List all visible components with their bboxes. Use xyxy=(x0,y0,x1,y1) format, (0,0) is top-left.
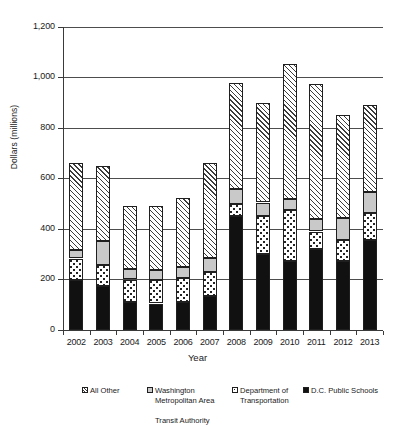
bar-segment-2008-s3 xyxy=(229,83,243,189)
x-tickmark-2003 xyxy=(116,331,117,335)
dotted-swatch-icon xyxy=(232,387,238,393)
legend-item-dcps[interactable]: D.C. Public Schools xyxy=(303,376,395,396)
bar-segment-2002-s3 xyxy=(69,163,83,250)
bar-2009 xyxy=(256,0,270,330)
black-swatch-icon xyxy=(303,387,309,393)
bar-2010 xyxy=(283,0,297,330)
legend-label-dcps: D.C. Public Schools xyxy=(311,386,378,395)
x-tickmark-origin xyxy=(63,331,64,335)
bar-segment-2006-s0 xyxy=(176,302,190,330)
bar-segment-2009-s3 xyxy=(256,103,270,203)
bar-segment-2005-s3 xyxy=(149,206,163,270)
x-axis-title: Year xyxy=(0,352,395,363)
bar-segment-2004-s3 xyxy=(123,206,137,269)
x-tickmark-2008 xyxy=(250,331,251,335)
x-tick-label-2013: 2013 xyxy=(353,337,387,347)
diagonal-hatch-swatch-icon xyxy=(82,387,88,393)
legend-label-wmata-line3: Transit Authority xyxy=(155,416,237,426)
bar-segment-2006-s1 xyxy=(176,278,190,302)
bar-segment-2005-s0 xyxy=(149,304,163,331)
bar-segment-2008-s2 xyxy=(229,189,243,204)
bar-segment-2013-s1 xyxy=(363,213,377,241)
bar-2013 xyxy=(363,0,377,330)
bar-segment-2011-s3 xyxy=(309,84,323,219)
bar-segment-2007-s1 xyxy=(203,272,217,296)
bar-segment-2011-s0 xyxy=(309,249,323,330)
x-tickmark-2004 xyxy=(143,331,144,335)
plot-area: Dollars (millions) 1,200 1,000 800 600 4… xyxy=(0,0,395,345)
legend-label-dot-line1: Department of xyxy=(240,386,288,395)
x-tickmark-2012 xyxy=(356,331,357,335)
bar-segment-2003-s3 xyxy=(96,166,110,241)
legend-item-dot[interactable]: Department of Transportation xyxy=(232,376,302,416)
legend-item-wmata[interactable]: Washington Metropolitan Area Transit Aut… xyxy=(147,376,237,429)
bar-segment-2007-s0 xyxy=(203,296,217,330)
bar-segment-2009-s0 xyxy=(256,254,270,330)
chart-legend: All Other Washington Metropolitan Area T… xyxy=(0,374,395,420)
bar-segment-2008-s1 xyxy=(229,204,243,217)
bar-segment-2010-s1 xyxy=(283,210,297,261)
bar-2011 xyxy=(309,0,323,330)
x-tickmark-2005 xyxy=(170,331,171,335)
bar-segment-2012-s0 xyxy=(336,261,350,330)
legend-label-dot-line2: Transportation xyxy=(240,396,302,406)
bar-2003 xyxy=(96,0,110,330)
bar-2012 xyxy=(336,0,350,330)
legend-label-wmata-line2: Metropolitan Area xyxy=(155,396,237,406)
gray-swatch-icon xyxy=(147,387,153,393)
bar-segment-2002-s0 xyxy=(69,280,83,330)
bar-segment-2011-s2 xyxy=(309,219,323,232)
chart-figure: Dollars (millions) 1,200 1,000 800 600 4… xyxy=(0,0,395,429)
bar-segment-2004-s2 xyxy=(123,269,137,280)
bar-2006 xyxy=(176,0,190,330)
x-tickmark-2013 xyxy=(383,331,384,335)
x-tickmark-2010 xyxy=(303,331,304,335)
legend-label-all-other: All Other xyxy=(90,386,120,395)
bar-segment-2004-s1 xyxy=(123,280,137,303)
bar-segment-2013-s2 xyxy=(363,192,377,212)
bar-segment-2002-s2 xyxy=(69,250,83,259)
bars-layer xyxy=(0,0,395,330)
bar-segment-2013-s0 xyxy=(363,240,377,330)
bar-segment-2005-s2 xyxy=(149,270,163,280)
bar-segment-2009-s1 xyxy=(256,216,270,254)
bar-segment-2004-s0 xyxy=(123,302,137,330)
bar-2007 xyxy=(203,0,217,330)
bar-2008 xyxy=(229,0,243,330)
bar-segment-2012-s2 xyxy=(336,218,350,240)
bar-2004 xyxy=(123,0,137,330)
bar-segment-2009-s2 xyxy=(256,203,270,217)
bar-segment-2012-s3 xyxy=(336,115,350,218)
legend-label-wmata-line1: Washington xyxy=(155,386,195,395)
bar-segment-2007-s2 xyxy=(203,258,217,272)
bar-segment-2013-s3 xyxy=(363,105,377,192)
x-tickmark-2011 xyxy=(330,331,331,335)
bar-segment-2010-s2 xyxy=(283,199,297,210)
bar-segment-2002-s1 xyxy=(69,259,83,281)
bar-2002 xyxy=(69,0,83,330)
legend-item-all-other[interactable]: All Other xyxy=(82,376,148,396)
bar-segment-2006-s3 xyxy=(176,198,190,267)
x-tickmark-2006 xyxy=(196,331,197,335)
bar-segment-2003-s1 xyxy=(96,265,110,287)
bar-segment-2007-s3 xyxy=(203,163,217,258)
x-tickmark-2009 xyxy=(276,331,277,335)
bar-segment-2006-s2 xyxy=(176,267,190,278)
bar-segment-2010-s0 xyxy=(283,261,297,330)
bar-segment-2012-s1 xyxy=(336,240,350,262)
bar-segment-2011-s1 xyxy=(309,232,323,250)
bar-segment-2010-s3 xyxy=(283,64,297,199)
bar-segment-2008-s0 xyxy=(229,216,243,330)
x-tickmark-2002 xyxy=(90,331,91,335)
bar-segment-2003-s2 xyxy=(96,241,110,265)
bar-segment-2005-s1 xyxy=(149,280,163,303)
bar-2005 xyxy=(149,0,163,330)
bar-segment-2003-s0 xyxy=(96,286,110,330)
x-tickmark-2007 xyxy=(223,331,224,335)
